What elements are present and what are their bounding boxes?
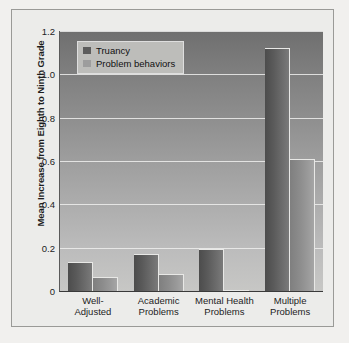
x-axis-label-3: MultipleProblems <box>257 295 323 317</box>
bar-group-3 <box>257 31 323 291</box>
bar-group-2 <box>192 31 258 291</box>
y-axis-tick-6: 1.2 <box>42 26 55 37</box>
bar-2-1 <box>224 290 249 291</box>
bar-1-0 <box>134 254 159 291</box>
y-axis-tick-3: 0.6 <box>42 156 55 167</box>
chart-figure: Mean Increase from Eighth to Ninth Grade… <box>11 9 334 327</box>
legend-label-problem-behaviors: Problem behaviors <box>96 58 175 69</box>
y-axis-tick-1: 0.2 <box>42 242 55 253</box>
chart-legend: Truancy Problem behaviors <box>77 41 184 74</box>
legend-item-problem-behaviors: Problem behaviors <box>83 58 175 69</box>
bar-2-0 <box>199 249 224 291</box>
x-axis-label-1: AcademicProblems <box>126 295 192 317</box>
bar-1-1 <box>159 274 184 291</box>
y-axis-tick-0: 0 <box>50 286 55 297</box>
bar-0-0 <box>68 262 93 291</box>
y-axis-tick-labels: 00.20.40.60.81.01.2 <box>24 31 58 291</box>
y-axis-tick-4: 0.8 <box>42 112 55 123</box>
y-axis-tick-5: 1.0 <box>42 69 55 80</box>
x-axis-category-labels: Well-AdjustedAcademicProblemsMental Heal… <box>60 295 323 317</box>
legend-item-truancy: Truancy <box>83 45 175 56</box>
bar-3-0 <box>265 48 290 291</box>
legend-swatch-problem-behaviors-icon <box>83 60 91 67</box>
x-axis-label-0: Well-Adjusted <box>60 295 126 317</box>
legend-label-truancy: Truancy <box>96 45 130 56</box>
x-axis-label-2: Mental HealthProblems <box>192 295 258 317</box>
legend-swatch-truancy-icon <box>83 47 91 54</box>
y-axis-tick-2: 0.4 <box>42 199 55 210</box>
plot-area: Truancy Problem behaviors <box>59 31 323 292</box>
bar-3-1 <box>290 159 315 291</box>
bar-0-1 <box>93 277 118 291</box>
